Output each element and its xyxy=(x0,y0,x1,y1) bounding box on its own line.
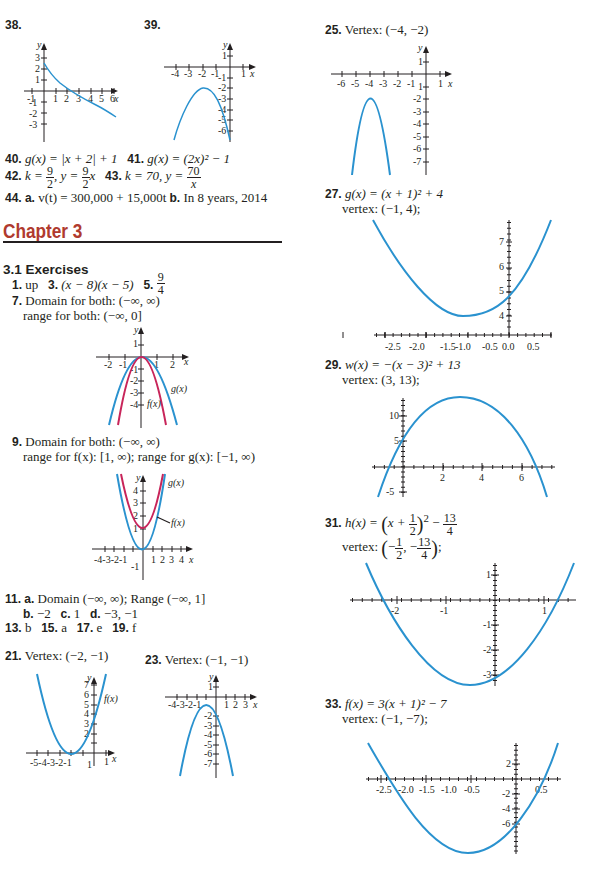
graph-33: -2.5-2.0-1.5-1.0-0.50.5 2-2-4-6 xyxy=(0,0,594,871)
svg-text:-4: -4 xyxy=(502,803,510,814)
svg-text:-2.0: -2.0 xyxy=(398,784,414,795)
svg-text:-1.0: -1.0 xyxy=(441,784,457,795)
svg-text:2: 2 xyxy=(506,758,511,769)
svg-text:-2.5: -2.5 xyxy=(376,784,392,795)
svg-text:-1.5: -1.5 xyxy=(419,784,435,795)
svg-text:-2: -2 xyxy=(502,788,510,799)
svg-text:-0.5: -0.5 xyxy=(464,784,480,795)
svg-text:-6: -6 xyxy=(502,818,510,829)
